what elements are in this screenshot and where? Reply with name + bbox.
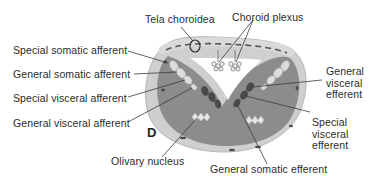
label-choroid-plexus: Choroid plexus (232, 11, 303, 23)
rim-spot (180, 137, 186, 140)
medulla-cross-section-diagram: Tela choroidea Choroid plexus Special so… (0, 0, 370, 180)
panel-letter: D (147, 125, 156, 140)
rim-spot (289, 125, 293, 128)
label-special-visceral-afferent: Special visceral afferent (13, 92, 127, 104)
rim-spot (161, 89, 165, 92)
label-olivary-nucleus: Olivary nucleus (111, 155, 184, 167)
rim-spot (296, 86, 299, 90)
label-general-visceral-afferent: General visceral afferent (13, 117, 130, 129)
label-general-somatic-afferent: General somatic afferent (13, 68, 130, 80)
label-special-visceral-efferent: Special visceral efferent (312, 117, 348, 152)
label-special-visceral-efferent-line3: efferent (312, 140, 348, 152)
label-general-visceral-efferent-line1: General (326, 66, 364, 78)
right-olivary-nucleus (246, 116, 264, 124)
label-general-visceral-efferent: General visceral efferent (326, 66, 364, 101)
diagram-graphic (0, 0, 370, 180)
rim-spot (229, 149, 235, 152)
label-special-somatic-afferent: Special somatic afferent (13, 44, 127, 56)
label-general-visceral-efferent-line3: efferent (326, 89, 364, 101)
left-olivary-nucleus (192, 113, 210, 121)
label-general-somatic-efferent: General somatic efferent (210, 163, 327, 175)
label-tela-choroidea: Tela choroidea (145, 13, 215, 25)
label-special-visceral-efferent-line1: Special (312, 117, 348, 129)
